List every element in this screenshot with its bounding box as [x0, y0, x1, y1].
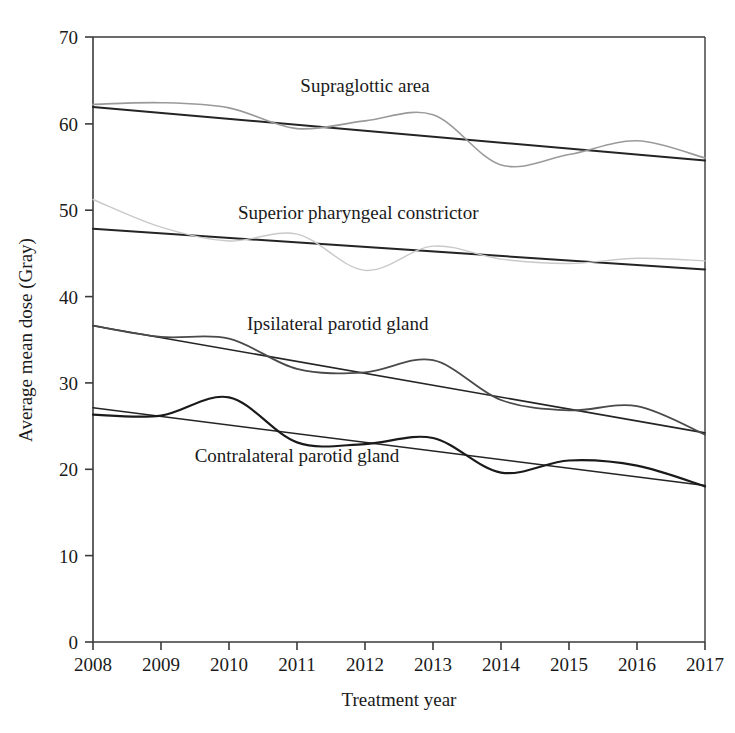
series-annotation-3: Contralateral parotid gland: [195, 445, 400, 466]
y-axis-ticks: [85, 37, 93, 642]
y-tick-label-50: 50: [59, 200, 78, 221]
y-tick-label-70: 70: [59, 27, 78, 48]
y-axis-title: Average mean dose (Gray): [15, 238, 37, 442]
y-tick-label-40: 40: [59, 287, 78, 308]
x-tick-label-2016: 2016: [618, 654, 656, 675]
y-axis-tick-labels: 0 10 20 30 40 50 60 70: [59, 27, 78, 653]
x-tick-label-2010: 2010: [210, 654, 248, 675]
plot-area-background: [93, 37, 705, 642]
x-axis-ticks: [93, 642, 705, 650]
series-annotation-1: Superior pharyngeal constrictor: [238, 202, 479, 223]
x-tick-label-2013: 2013: [414, 654, 452, 675]
x-axis-tick-labels: 2008 2009 2010 2011 2012 2013 2014 2015 …: [74, 654, 724, 675]
x-tick-label-2009: 2009: [142, 654, 180, 675]
x-tick-label-2012: 2012: [346, 654, 384, 675]
x-tick-label-2011: 2011: [278, 654, 315, 675]
x-axis-title: Treatment year: [342, 689, 458, 710]
x-tick-label-2014: 2014: [482, 654, 521, 675]
x-tick-label-2017: 2017: [686, 654, 724, 675]
y-tick-label-0: 0: [69, 632, 79, 653]
x-tick-label-2008: 2008: [74, 654, 112, 675]
chart-figure: 0 10 20 30 40 50 60 70 2008 2009 2010: [0, 0, 735, 733]
series-annotation-0: Supraglottic area: [300, 75, 430, 96]
y-tick-label-10: 10: [59, 546, 78, 567]
y-tick-label-60: 60: [59, 114, 78, 135]
series-annotation-2: Ipsilateral parotid gland: [247, 313, 429, 334]
x-tick-label-2015: 2015: [550, 654, 588, 675]
y-tick-label-30: 30: [59, 373, 78, 394]
line-chart-canvas: 0 10 20 30 40 50 60 70 2008 2009 2010: [0, 0, 735, 733]
y-tick-label-20: 20: [59, 459, 78, 480]
